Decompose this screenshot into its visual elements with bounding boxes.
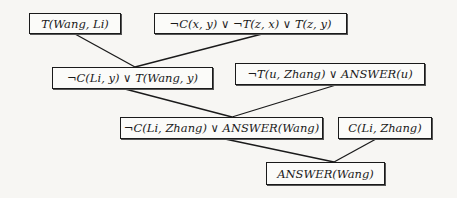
- node-label: T(Wang, Li): [41, 17, 109, 31]
- resolution-diagram: T(Wang, Li) ¬C(x, y) ∨ ¬T(z, x) ∨ T(z, y…: [0, 0, 457, 198]
- node-label: ¬C(Li, y) ∨ T(Wang, y): [67, 71, 198, 85]
- edge-n4-n5: [232, 85, 336, 117]
- node-label: ¬C(Li, Zhang) ∨ ANSWER(Wang): [124, 121, 319, 135]
- node-negated-goal: ¬T(u, Zhang) ∨ ANSWER(u): [235, 63, 425, 85]
- edge-n5-n7: [225, 139, 334, 162]
- edge-n1-n3: [75, 34, 135, 67]
- node-label: ¬C(x, y) ∨ ¬T(z, x) ∨ T(z, y): [170, 17, 332, 31]
- node-resolvent-2: ¬C(Li, Zhang) ∨ ANSWER(Wang): [120, 117, 323, 139]
- node-t-wang-li: T(Wang, Li): [29, 13, 121, 34]
- edge-n6-n7: [334, 139, 376, 162]
- node-label: ANSWER(Wang): [277, 167, 374, 181]
- node-resolvent-1: ¬C(Li, y) ∨ T(Wang, y): [52, 67, 213, 89]
- node-c-li-zhang: C(Li, Zhang): [338, 117, 432, 139]
- edge-n3-n5: [125, 89, 232, 117]
- node-answer-wang: ANSWER(Wang): [266, 162, 385, 185]
- node-label: ¬T(u, Zhang) ∨ ANSWER(u): [247, 67, 412, 81]
- node-label: C(Li, Zhang): [348, 121, 421, 135]
- node-transitivity-axiom: ¬C(x, y) ∨ ¬T(z, x) ∨ T(z, y): [154, 13, 347, 34]
